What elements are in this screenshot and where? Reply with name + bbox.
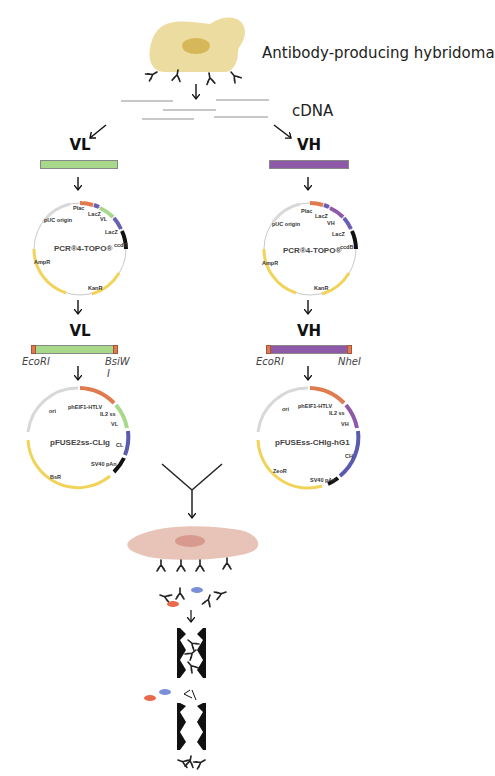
label-lacz: LacZ (88, 211, 101, 217)
vh-insert-bar (266, 345, 352, 354)
vl-left-site-label: EcoRI (22, 356, 50, 367)
label-cl: CL (116, 442, 123, 448)
label-bsr: BsR (50, 474, 61, 480)
label-kanr: KanR (314, 285, 328, 291)
vh-chain-title: VH (289, 136, 329, 154)
merge-y-icon (162, 464, 222, 518)
vh-cloning-vector-name: PCR®4-TOPO® (283, 246, 341, 255)
label-promoter: phEIF1-HTLV (298, 403, 332, 409)
hybridoma-cell-icon (145, 18, 245, 85)
label-kanr: KanR (88, 285, 102, 291)
vl-insert-title: VL (60, 322, 100, 340)
vl-right-site-label-2: I (107, 368, 110, 379)
label-il2ss: IL2 ss (329, 410, 345, 416)
ecori-site-marker (31, 345, 36, 354)
vl-expression-vector-name: pFUSE2ss-CLIg (50, 438, 110, 447)
label-ccdb: ccdB (114, 242, 127, 248)
label-vl: VL (111, 421, 118, 427)
label-ampr: AmpR (34, 259, 50, 265)
vh-gene-bar (269, 160, 349, 169)
label-ch: CH (345, 453, 353, 459)
label-puc-origin: pUC origin (272, 221, 300, 227)
label-sv40: SV40 pAn (310, 477, 336, 483)
cdna-label: cDNA (292, 102, 333, 120)
vl-chain-title: VL (60, 136, 100, 154)
label-lacz-2: LacZ (105, 229, 118, 235)
label-lacz-2: LacZ (332, 231, 345, 237)
vh-insert-title: VH (289, 322, 329, 340)
label-ori: ori (49, 408, 56, 414)
nhei-site-marker (347, 345, 352, 354)
vh-left-site-label: EcoRI (256, 356, 284, 367)
label-vl: VL (100, 216, 107, 222)
hybridoma-label: Antibody-producing hybridoma (262, 44, 495, 62)
vh-right-site-label: NheI (338, 356, 361, 367)
vh-expression-vector-name: pFUSEss-CHIg-hG1 (275, 438, 350, 447)
affinity-column-binding-icon (177, 628, 206, 678)
wash-step-icon (144, 689, 196, 701)
label-sv40: SV40 pAn (91, 461, 117, 467)
label-ccdb: ccdB (340, 244, 353, 250)
ecori-site-marker (266, 345, 271, 354)
affinity-column-elution-icon (177, 703, 207, 769)
bsiwi-site-marker (113, 345, 118, 354)
vl-gene-bar (40, 160, 118, 169)
label-ampr: AmpR (262, 260, 278, 266)
vl-insert-bar (31, 345, 118, 354)
supernatant-icon (159, 587, 228, 607)
label-vh: VH (327, 220, 335, 226)
label-vh: VH (341, 421, 349, 427)
label-ori: ori (282, 406, 289, 412)
label-promoter: phEIF1-HTLV (68, 404, 102, 410)
vl-cloning-vector-name: PCR®4-TOPO® (54, 244, 112, 253)
label-il2ss: IL2 ss (100, 411, 116, 417)
producer-cell-icon (127, 526, 258, 571)
label-plac: Plac (73, 205, 84, 211)
label-plac: Plac (301, 208, 312, 214)
cdna-strands-icon (121, 100, 269, 119)
label-zeor: ZeoR (273, 468, 287, 474)
label-lacz: LacZ (315, 213, 328, 219)
label-puc-origin: pUC origin (44, 217, 72, 223)
vl-right-site-label: BsiW (105, 356, 130, 367)
